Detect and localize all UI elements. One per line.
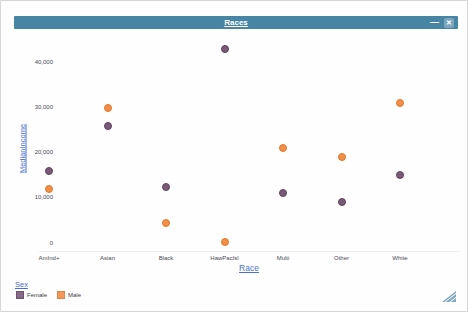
legend-item-female[interactable]: Female [16,291,47,299]
x-tick-label: Multi [253,255,313,261]
window-title-link[interactable]: Races [224,18,248,27]
dot-female-hawpacisl[interactable] [221,45,229,53]
window-controls: — ✕ [430,16,454,29]
legend-label: Female [27,292,47,298]
x-tick-label: Asian [78,255,138,261]
y-tick-label: 20,000 [9,149,53,155]
legend-swatch-male [57,291,65,299]
chart-window: Races — ✕ MedianIncome 010,00020,00030,0… [0,0,468,312]
legend-title-link[interactable]: Sex [15,280,28,289]
y-tick-label: 10,000 [9,194,53,200]
dot-male-asian[interactable] [104,104,112,112]
dot-male-other[interactable] [338,153,346,161]
dot-male-white[interactable] [396,99,404,107]
resize-handle-icon[interactable] [441,291,456,302]
dot-male-black[interactable] [162,219,170,227]
legend-swatch-female [16,291,24,299]
legend-label: Male [68,292,81,298]
y-tick-label: 0 [9,240,53,246]
dot-female-multi[interactable] [279,189,287,197]
dot-female-white[interactable] [396,171,404,179]
x-tick-label: White [370,255,430,261]
dot-male-multi[interactable] [279,144,287,152]
x-axis-line [39,251,459,252]
x-axis-label-link[interactable]: Race [214,263,284,273]
legend-item-male[interactable]: Male [57,291,81,299]
close-icon[interactable]: ✕ [444,18,454,28]
y-tick-label: 40,000 [9,59,53,65]
x-tick-label: AmInd+ [19,255,79,261]
minimize-icon[interactable]: — [430,18,439,27]
x-tick-label: HawPacIsl [195,255,255,261]
dot-male-amind+[interactable] [45,185,53,193]
y-tick-label: 30,000 [9,104,53,110]
dot-female-amind+[interactable] [45,167,53,175]
x-tick-label: Other [312,255,372,261]
dot-female-asian[interactable] [104,122,112,130]
dot-female-black[interactable] [162,183,170,191]
window-titlebar[interactable]: Races — ✕ [14,16,458,29]
legend: FemaleMale [16,291,81,299]
x-tick-label: Black [136,255,196,261]
dot-male-hawpacisl[interactable] [221,238,229,246]
dot-female-other[interactable] [338,198,346,206]
